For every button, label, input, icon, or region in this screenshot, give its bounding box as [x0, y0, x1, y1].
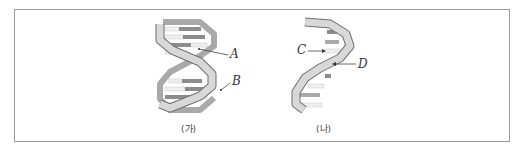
dna-figure: [0, 0, 525, 150]
caption-na: (나): [316, 122, 331, 135]
single-helix: [296, 21, 356, 110]
double-helix: [160, 22, 230, 110]
label-c: C: [297, 43, 306, 57]
leader-b: [221, 83, 230, 90]
caption-ga: (가): [181, 122, 196, 135]
label-d: D: [358, 57, 368, 71]
label-b: B: [232, 74, 241, 88]
label-a: A: [230, 47, 239, 61]
